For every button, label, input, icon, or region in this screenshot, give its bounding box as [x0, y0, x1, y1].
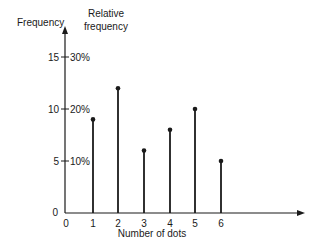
stem-dot-3 [142, 148, 147, 153]
y-tick-label-0: 0 [52, 207, 58, 218]
stem-dot-1 [91, 117, 96, 122]
x-tick-label-2: 2 [115, 218, 121, 229]
x-tick-label-0: 0 [63, 218, 69, 229]
stem-dot-4 [168, 128, 173, 133]
x-tick-label-4: 4 [167, 218, 173, 229]
rel-tick-label-20: 20% [70, 104, 90, 115]
stem-dot-5 [193, 107, 198, 112]
y2-axis-title-line2: frequency [84, 21, 128, 32]
stem-dot-6 [219, 159, 224, 164]
y-axis-title: Frequency [17, 17, 64, 28]
y2-axis-title-line1: Relative [88, 8, 125, 19]
x-tick-label-6: 6 [218, 218, 224, 229]
y-tick-label-15: 15 [48, 52, 60, 63]
y-tick-label-10: 10 [48, 104, 60, 115]
frequency-stem-chart: 15 10 5 0 30% 20% 10% Frequency Relative… [0, 0, 319, 249]
x-tick-label-1: 1 [90, 218, 96, 229]
x-tick-label-5: 5 [192, 218, 198, 229]
rel-tick-label-10: 10% [70, 156, 90, 167]
rel-tick-label-30: 30% [70, 52, 90, 63]
stem-series [91, 86, 224, 213]
stem-dot-2 [116, 86, 121, 91]
y-tick-label-5: 5 [53, 156, 59, 167]
x-axis-title: Number of dots [118, 228, 186, 239]
x-tick-label-3: 3 [141, 218, 147, 229]
x-axis-arrow-icon [297, 210, 305, 216]
